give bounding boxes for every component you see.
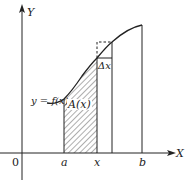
y-axis-label: Y [27,7,34,18]
x-axis-label: X [176,148,184,159]
origin-label: 0 [12,157,19,168]
diagram-canvas [0,0,185,186]
tick-label-x: x [94,157,100,168]
tick-label-a: a [61,157,68,168]
area-label: A(x) [67,99,92,110]
tick-label-b: b [139,157,146,168]
diagram: Y X 0 y = f(x) A(x) Δx a x b [0,0,185,186]
curve-label: y = f(x) [31,96,69,106]
increment-label: Δx [98,61,111,71]
